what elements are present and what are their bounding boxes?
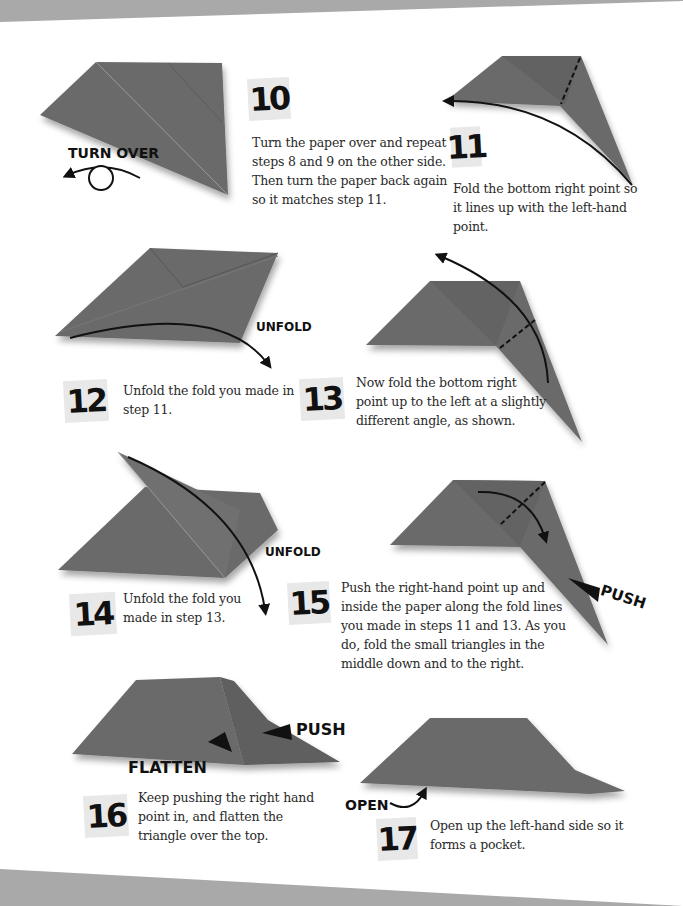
step-15-instructions: Push the right-hand point up and inside … bbox=[341, 578, 566, 673]
text-line: Turn the paper over and repeat bbox=[252, 133, 447, 152]
step-11-instructions: Fold the bottom right point so it lines … bbox=[453, 179, 637, 236]
unfold-label-14: UNFOLD bbox=[265, 545, 321, 559]
unfold-label-12: UNFOLD bbox=[256, 320, 312, 334]
step-number-badge: 14 bbox=[69, 592, 117, 636]
text-line: different angle, as shown. bbox=[356, 411, 546, 430]
text-line: Now fold the bottom right bbox=[356, 373, 546, 392]
text-line: steps 8 and 9 on the other side. bbox=[252, 152, 447, 171]
text-line: so it matches step 11. bbox=[252, 190, 447, 209]
turn-over-label: TURN OVER bbox=[68, 145, 159, 161]
text-line: Open up the left-hand side so it bbox=[430, 816, 623, 835]
step-number-badge: 15 bbox=[287, 581, 331, 625]
step-14-instructions: Unfold the fold you made in step 13. bbox=[123, 589, 241, 627]
step-number-badge: 11 bbox=[450, 126, 482, 168]
text-line: point. bbox=[453, 217, 637, 236]
text-line: Fold the bottom right point so bbox=[453, 179, 637, 198]
step-10-instructions: Turn the paper over and repeat steps 8 a… bbox=[252, 133, 447, 209]
text-line: triangle over the top. bbox=[138, 826, 314, 845]
text-line: it lines up with the left-hand bbox=[453, 198, 637, 217]
text-line: middle down and to the right. bbox=[341, 654, 566, 673]
text-line: Unfold the fold you bbox=[123, 589, 241, 608]
text-line: Then turn the paper back again bbox=[252, 171, 447, 190]
flatten-label: FLATTEN bbox=[128, 758, 207, 777]
text-line: you made in steps 11 and 13. As you bbox=[341, 616, 566, 635]
text-line: do, fold the small triangles in the bbox=[341, 635, 566, 654]
text-line: point in, and flatten the bbox=[138, 807, 314, 826]
step-17-diagram bbox=[360, 718, 625, 794]
text-line: point up to the left at a slightly bbox=[356, 392, 546, 411]
step-12-diagram bbox=[55, 248, 278, 343]
text-line: inside the paper along the fold lines bbox=[341, 597, 566, 616]
step-13-instructions: Now fold the bottom right point up to th… bbox=[356, 373, 546, 430]
step-16-instructions: Keep pushing the right hand point in, an… bbox=[138, 788, 314, 845]
step-17-instructions: Open up the left-hand side so it forms a… bbox=[430, 816, 623, 854]
step-12-instructions: Unfold the fold you made in step 11. bbox=[123, 381, 294, 419]
turn-over-icon bbox=[68, 166, 140, 190]
text-line: Push the right-hand point up and bbox=[341, 578, 566, 597]
open-label: OPEN bbox=[345, 797, 388, 813]
step-number-badge: 16 bbox=[83, 794, 129, 838]
text-line: Keep pushing the right hand bbox=[138, 788, 314, 807]
text-line: Unfold the fold you made in bbox=[123, 381, 294, 400]
text-line: made in step 13. bbox=[123, 608, 241, 627]
text-line: forms a pocket. bbox=[430, 835, 623, 854]
step-number-badge: 12 bbox=[63, 379, 109, 423]
step-number-badge: 10 bbox=[247, 77, 291, 121]
step-number-badge: 13 bbox=[299, 377, 345, 421]
push-label-16: PUSH bbox=[296, 720, 346, 739]
step-14-diagram bbox=[58, 452, 278, 578]
step-number-badge: 17 bbox=[376, 817, 418, 861]
text-line: step 11. bbox=[123, 400, 294, 419]
